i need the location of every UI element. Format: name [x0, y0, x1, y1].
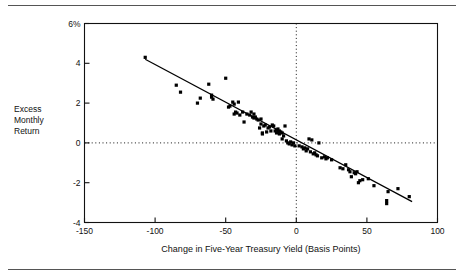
data-point-marker: [320, 156, 323, 159]
y-axis-title-line: Monthly: [14, 115, 45, 125]
data-point-marker: [385, 202, 388, 205]
data-point-marker: [298, 144, 301, 147]
data-point-marker: [350, 175, 353, 178]
data-point-marker: [289, 140, 292, 143]
data-point-marker: [228, 104, 231, 107]
data-point-marker: [316, 154, 319, 157]
data-point-marker: [241, 110, 244, 113]
data-point-marker: [268, 125, 271, 128]
data-point-marker: [224, 77, 227, 80]
y-axis-tick-label: -2: [73, 178, 81, 188]
data-point-marker: [330, 158, 333, 161]
data-point-marker: [211, 98, 214, 101]
data-point-marker: [196, 102, 199, 105]
data-point-marker: [306, 147, 309, 150]
data-point-marker: [309, 150, 312, 153]
data-point-marker: [396, 187, 399, 190]
data-point-marker: [242, 120, 245, 123]
data-point-marker: [338, 166, 341, 169]
data-point-marker: [386, 190, 389, 193]
data-point-marker: [310, 138, 313, 141]
data-point-marker: [259, 122, 262, 125]
data-point-marker: [282, 134, 285, 137]
x-axis-tick-label: -100: [147, 226, 164, 236]
data-point-marker: [265, 130, 268, 133]
data-point-marker: [348, 170, 351, 173]
data-point-marker: [408, 195, 411, 198]
y-axis-tick-label: 2: [76, 98, 81, 108]
data-point-marker: [272, 124, 275, 127]
data-point-marker: [355, 170, 358, 173]
data-point-marker: [261, 132, 264, 135]
data-point-marker: [179, 91, 182, 94]
data-point-marker: [303, 146, 306, 149]
y-axis-tick-label: 0: [76, 138, 81, 148]
x-axis-tick-label: 100: [430, 226, 444, 236]
data-point-marker: [344, 163, 347, 166]
y-axis-tick-label: 4: [76, 58, 81, 68]
data-point-marker: [326, 156, 329, 159]
y-axis-title-line: Excess: [14, 104, 41, 114]
chart-figure: -4-20246%-150-100-50050100Change in Five…: [0, 0, 464, 276]
data-point-marker: [258, 126, 261, 129]
data-point-marker: [283, 124, 286, 127]
data-point-marker: [358, 179, 361, 182]
data-point-marker: [341, 167, 344, 170]
data-point-marker: [248, 113, 251, 116]
data-point-marker: [385, 199, 388, 202]
data-point-marker: [317, 141, 320, 144]
data-point-marker: [235, 111, 238, 114]
data-point-marker: [257, 118, 260, 121]
data-point-marker: [307, 137, 310, 140]
data-point-marker: [199, 97, 202, 100]
data-point-marker: [361, 178, 364, 181]
data-point-marker: [233, 102, 236, 105]
y-axis-title-line: Return: [14, 126, 40, 136]
data-point-marker: [367, 177, 370, 180]
x-axis-tick-label: -50: [220, 226, 233, 236]
data-point-marker: [281, 137, 284, 140]
data-point-marker: [293, 144, 296, 147]
x-axis-tick-label: -150: [76, 226, 93, 236]
data-point-marker: [245, 112, 248, 115]
data-point-marker: [175, 84, 178, 87]
scatter-plot: -4-20246%-150-100-50050100Change in Five…: [0, 0, 464, 276]
data-point-marker: [250, 110, 253, 113]
data-point-marker: [264, 123, 267, 126]
data-point-marker: [144, 56, 147, 59]
x-axis-title: Change in Five-Year Treasury Yield (Basi…: [161, 244, 360, 254]
x-axis-tick-label: 50: [362, 226, 372, 236]
data-point-marker: [269, 129, 272, 132]
data-point-marker: [372, 184, 375, 187]
data-point-marker: [252, 112, 255, 115]
x-axis-tick-label: 0: [294, 226, 299, 236]
data-point-marker: [237, 101, 240, 104]
y-axis-tick-label: 6%: [68, 19, 81, 29]
data-point-marker: [238, 113, 241, 116]
data-point-marker: [259, 117, 262, 120]
data-point-marker: [207, 83, 210, 86]
data-point-marker: [281, 131, 284, 134]
data-point-marker: [292, 141, 295, 144]
